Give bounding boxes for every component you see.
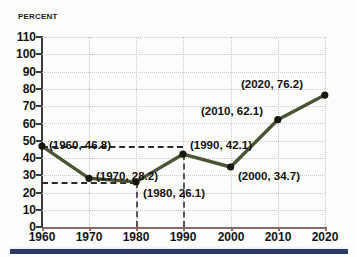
data-point-2020	[321, 92, 328, 99]
y-tick-label-60: 60	[2, 118, 36, 130]
point-label-2000: (2000, 34.7)	[238, 171, 300, 183]
y-tick-label-20: 20	[2, 187, 36, 199]
y-tick-label-40: 40	[2, 152, 36, 164]
x-tick-label-2020: 2020	[297, 231, 353, 243]
data-point-1990	[179, 151, 186, 158]
y-tick-label-30: 30	[2, 169, 36, 181]
data-point-1960	[38, 143, 45, 150]
data-point-2010	[274, 116, 281, 123]
point-label-1990: (1990, 42.1)	[190, 140, 252, 152]
y-axis-title: Percent	[18, 9, 58, 21]
y-tick-label-100: 100	[2, 48, 36, 60]
point-label-1970: (1970, 28.2)	[96, 171, 158, 183]
bottom-accent-bar	[10, 249, 348, 254]
y-tick-label-90: 90	[2, 66, 36, 78]
plot-area: (1960, 46.8) (1970, 28.2) (1980, 26.1) (…	[42, 37, 325, 227]
line-chart-figure: Percent 110 100 90 80 70 60 50 40 30 20 …	[0, 0, 356, 257]
y-tick-label-70: 70	[2, 100, 36, 112]
y-tick-label-50: 50	[2, 135, 36, 147]
y-tick-label-80: 80	[2, 83, 36, 95]
point-label-2010: (2010, 62.1)	[201, 106, 263, 118]
data-point-2000	[227, 163, 234, 170]
point-label-1960: (1960, 46.8)	[49, 140, 111, 152]
point-label-2020: (2020, 76.2)	[241, 79, 303, 91]
data-point-1970	[85, 175, 92, 182]
point-label-1980: (1980, 26.1)	[143, 188, 205, 200]
y-tick-label-110: 110	[2, 31, 36, 43]
y-tick-label-10: 10	[2, 204, 36, 216]
